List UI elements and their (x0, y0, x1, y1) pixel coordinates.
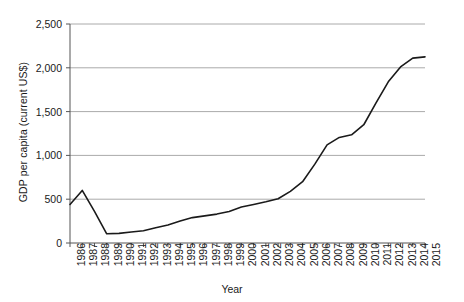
x-axis-tick-label: 2006 (320, 243, 332, 283)
x-axis-tick-label: 2014 (418, 243, 430, 283)
x-axis-tick-label: 1995 (185, 243, 197, 283)
x-axis-tick-label: 2011 (381, 243, 393, 283)
x-axis-tick-label: 2015 (430, 243, 442, 283)
x-axis-tick-label: 1991 (136, 243, 148, 283)
gridlines (66, 24, 425, 243)
x-axis-tick-label: 1993 (161, 243, 173, 283)
y-axis-tick-label: 2,500 (20, 19, 62, 29)
data-series-line (70, 57, 425, 234)
x-axis-tick-label: 2003 (283, 243, 295, 283)
x-axis-tick-label: 1994 (173, 243, 185, 283)
x-axis-tick-label: 2000 (246, 243, 258, 283)
y-axis-tick-labels: 05001,0001,5002,0002,500 (16, 0, 62, 302)
x-axis-tick-label: 2008 (344, 243, 356, 283)
x-axis-tick-label: 2002 (271, 243, 283, 283)
x-axis-tick-label: 1989 (112, 243, 124, 283)
x-axis-tick-label: 2005 (308, 243, 320, 283)
x-axis-tick-label: 1986 (75, 243, 87, 283)
x-axis-tick-label: 2001 (259, 243, 271, 283)
x-axis-tick-label: 2007 (332, 243, 344, 283)
y-axis-tick-label: 1,500 (20, 107, 62, 117)
x-axis-tick-label: 2009 (357, 243, 369, 283)
plot-area (70, 24, 425, 243)
x-axis-tick-label: 2012 (393, 243, 405, 283)
x-axis-tick-label: 1999 (234, 243, 246, 283)
gdp-per-capita-line-chart: GDP per capita (current US$) 05001,0001,… (0, 0, 464, 302)
y-axis-tick-label: 0 (20, 238, 62, 248)
x-axis-tick-label: 2013 (406, 243, 418, 283)
x-axis-tick-label: 2004 (295, 243, 307, 283)
x-axis-tick-label: 1992 (148, 243, 160, 283)
x-axis-tick-label: 1987 (87, 243, 99, 283)
y-axis-tick-label: 500 (20, 194, 62, 204)
chart-canvas (70, 24, 425, 243)
x-axis-tick-label: 1990 (124, 243, 136, 283)
x-axis-tick-labels: 1986198719881989199019911992199319941995… (70, 243, 425, 288)
x-axis-tick-label: 2010 (369, 243, 381, 283)
x-axis-tick-label: 1998 (222, 243, 234, 283)
x-axis-title: Year (0, 283, 464, 296)
x-axis-tick-label: 1988 (99, 243, 111, 283)
x-axis-tick-label: 1996 (197, 243, 209, 283)
y-axis-tick-label: 1,000 (20, 150, 62, 160)
y-axis-tick-label: 2,000 (20, 63, 62, 73)
x-axis-tick-label: 1997 (210, 243, 222, 283)
